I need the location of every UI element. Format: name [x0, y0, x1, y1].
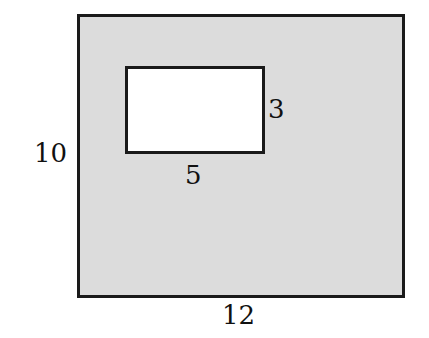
inner-width-label: 5	[185, 162, 202, 188]
outer-height-label: 10	[34, 140, 67, 166]
outer-width-label: 12	[222, 302, 255, 328]
outer-rectangle-shaded	[77, 14, 405, 298]
inner-height-label: 3	[268, 96, 285, 122]
inner-rectangle-unshaded	[125, 66, 265, 154]
